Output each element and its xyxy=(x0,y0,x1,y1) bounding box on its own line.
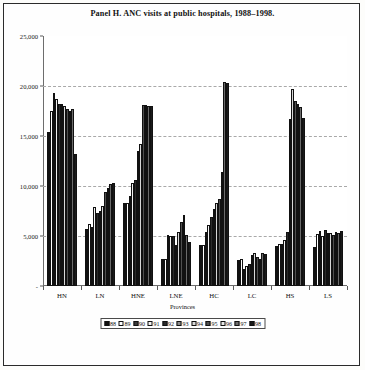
x-axis-separator xyxy=(309,286,310,290)
x-axis-title: Provinces xyxy=(0,303,365,310)
bar-group-hn xyxy=(43,36,81,286)
legend-label: 97 xyxy=(241,321,247,327)
x-axis-label-ln: LN xyxy=(95,292,104,299)
x-axis-separator xyxy=(347,286,348,290)
y-tick-label: - xyxy=(36,283,38,290)
bar-ln-98 xyxy=(112,183,115,286)
legend-swatch-icon xyxy=(119,321,124,326)
legend-swatch-icon xyxy=(177,321,182,326)
bar-group-ln xyxy=(81,36,119,286)
x-axis-separator xyxy=(43,286,44,290)
bar-group-hc xyxy=(195,36,233,286)
legend-item-89[interactable]: 89 xyxy=(119,321,131,327)
legend-item-93[interactable]: 93 xyxy=(177,321,189,327)
x-axis-separator xyxy=(81,286,82,290)
legend-swatch-icon xyxy=(133,321,138,326)
bar-group-hne xyxy=(119,36,157,286)
bar-group-lc xyxy=(233,36,271,286)
legend-item-91[interactable]: 91 xyxy=(148,321,160,327)
legend-label: 91 xyxy=(154,321,160,327)
bar-group-hs xyxy=(271,36,309,286)
legend-label: 95 xyxy=(212,321,218,327)
chart-title: Panel H. ANC visits at public hospitals,… xyxy=(0,9,365,18)
legend-item-92[interactable]: 92 xyxy=(162,321,174,327)
legend-swatch-icon xyxy=(206,321,211,326)
y-tick-label: 10,000 xyxy=(20,183,38,190)
bar-group-lne xyxy=(157,36,195,286)
x-axis-label-lc: LC xyxy=(248,292,257,299)
x-axis-label-hn: HN xyxy=(57,292,67,299)
bar-lne-98 xyxy=(188,242,191,286)
legend-item-95[interactable]: 95 xyxy=(206,321,218,327)
bar-group-ls xyxy=(309,36,347,286)
x-axis-label-hc: HC xyxy=(209,292,218,299)
x-axis-label-hne: HNE xyxy=(131,292,145,299)
legend-item-94[interactable]: 94 xyxy=(191,321,203,327)
legend-label: 94 xyxy=(197,321,203,327)
x-axis-label-lne: LNE xyxy=(169,292,182,299)
x-axis-label-hs: HS xyxy=(286,292,295,299)
legend-item-88[interactable]: 88 xyxy=(104,321,116,327)
figure-panel-h: Panel H. ANC visits at public hospitals,… xyxy=(0,0,365,370)
x-axis-separator xyxy=(233,286,234,290)
bar-lc-98 xyxy=(264,254,267,286)
y-tick-label: 20,000 xyxy=(20,83,38,90)
y-tick-label: 15,000 xyxy=(20,133,38,140)
legend-item-98[interactable]: 98 xyxy=(249,321,261,327)
legend-item-96[interactable]: 96 xyxy=(220,321,232,327)
legend-swatch-icon xyxy=(235,321,240,326)
y-tick-label: 25,000 xyxy=(20,33,38,40)
x-axis-label-ls: LS xyxy=(324,292,332,299)
legend-label: 92 xyxy=(168,321,174,327)
legend-swatch-icon xyxy=(220,321,225,326)
x-axis-separator xyxy=(119,286,120,290)
x-axis-separator xyxy=(157,286,158,290)
x-axis-separator xyxy=(195,286,196,290)
legend-label: 88 xyxy=(110,321,116,327)
bar-hs-98 xyxy=(302,118,305,286)
legend-swatch-icon xyxy=(104,321,109,326)
legend-swatch-icon xyxy=(148,321,153,326)
legend-label: 96 xyxy=(226,321,232,327)
bar-series-layer xyxy=(43,36,347,286)
chart-legend: 8889909192939495969798 xyxy=(100,318,265,329)
bar-ls-98 xyxy=(340,231,343,286)
legend-item-90[interactable]: 90 xyxy=(133,321,145,327)
legend-item-97[interactable]: 97 xyxy=(235,321,247,327)
legend-swatch-icon xyxy=(249,321,254,326)
bar-hne-98 xyxy=(150,106,153,286)
legend-label: 89 xyxy=(125,321,131,327)
bar-hn-98 xyxy=(74,154,77,286)
legend-label: 90 xyxy=(139,321,145,327)
x-axis-separator xyxy=(271,286,272,290)
legend-swatch-icon xyxy=(162,321,167,326)
legend-label: 93 xyxy=(183,321,189,327)
bar-hc-98 xyxy=(226,83,229,287)
legend-swatch-icon xyxy=(191,321,196,326)
plot-area: 25,00020,00015,00010,0005,000- xyxy=(43,36,347,286)
y-tick-label: 5,000 xyxy=(23,233,38,240)
legend-label: 98 xyxy=(255,321,261,327)
